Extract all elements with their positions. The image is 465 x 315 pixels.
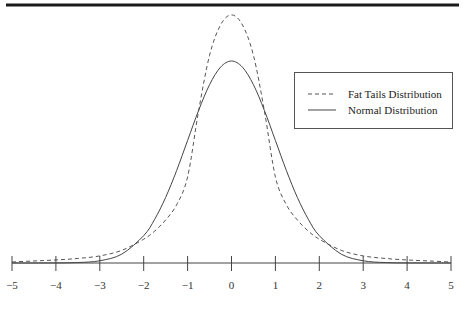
legend: Fat Tails Distribution Normal Distributi… — [295, 73, 453, 129]
x-tick-label: 1 — [273, 279, 279, 291]
x-tick-label: −2 — [138, 279, 150, 291]
x-tick-label: 3 — [360, 279, 366, 291]
chart: −5−4−3−2−1012345 Fat Tails Distribution … — [0, 0, 465, 315]
x-tick-label: −4 — [50, 279, 62, 291]
series-line-fat-tails — [12, 15, 451, 262]
x-tick-label: 5 — [448, 279, 454, 291]
legend-box — [295, 73, 453, 129]
legend-label-fat-tails: Fat Tails Distribution — [348, 88, 442, 100]
x-tick-label: 0 — [229, 279, 235, 291]
legend-label-normal: Normal Distribution — [348, 104, 438, 116]
x-tick-label: −3 — [94, 279, 106, 291]
x-tick-label: −1 — [182, 279, 194, 291]
x-tick-label: 2 — [317, 279, 323, 291]
x-tick-label: −5 — [6, 279, 18, 291]
x-tick-label: 4 — [404, 279, 410, 291]
